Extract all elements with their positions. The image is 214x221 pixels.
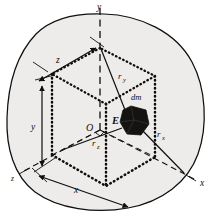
figure-container: y x z z y x O E dm r y r x r z	[0, 0, 214, 221]
radius-label-r-x-base: r	[157, 129, 161, 139]
axis-label-x: x	[199, 178, 205, 188]
dimension-label-y: y	[30, 122, 36, 132]
radius-label-r-x-subscript: x	[161, 134, 165, 141]
radius-label-r-z-subscript: z	[96, 143, 100, 150]
x-axis-end-tick	[186, 175, 196, 181]
dimension-label-x: x	[73, 185, 79, 195]
radius-label-r-z-base: r	[92, 138, 96, 148]
radius-label-r-y-base: r	[118, 71, 122, 81]
axis-label-z: z	[10, 174, 14, 183]
point-label-origin: O	[86, 122, 93, 133]
dimension-label-z: z	[55, 55, 60, 65]
point-label-E: E	[111, 115, 119, 126]
radius-label-r-y-subscript: y	[122, 76, 126, 83]
diagram-canvas: y x z z y x O E dm r y r x r z	[0, 0, 214, 221]
mass-element-label-dm: dm	[131, 92, 141, 102]
axis-label-y: y	[96, 2, 102, 12]
